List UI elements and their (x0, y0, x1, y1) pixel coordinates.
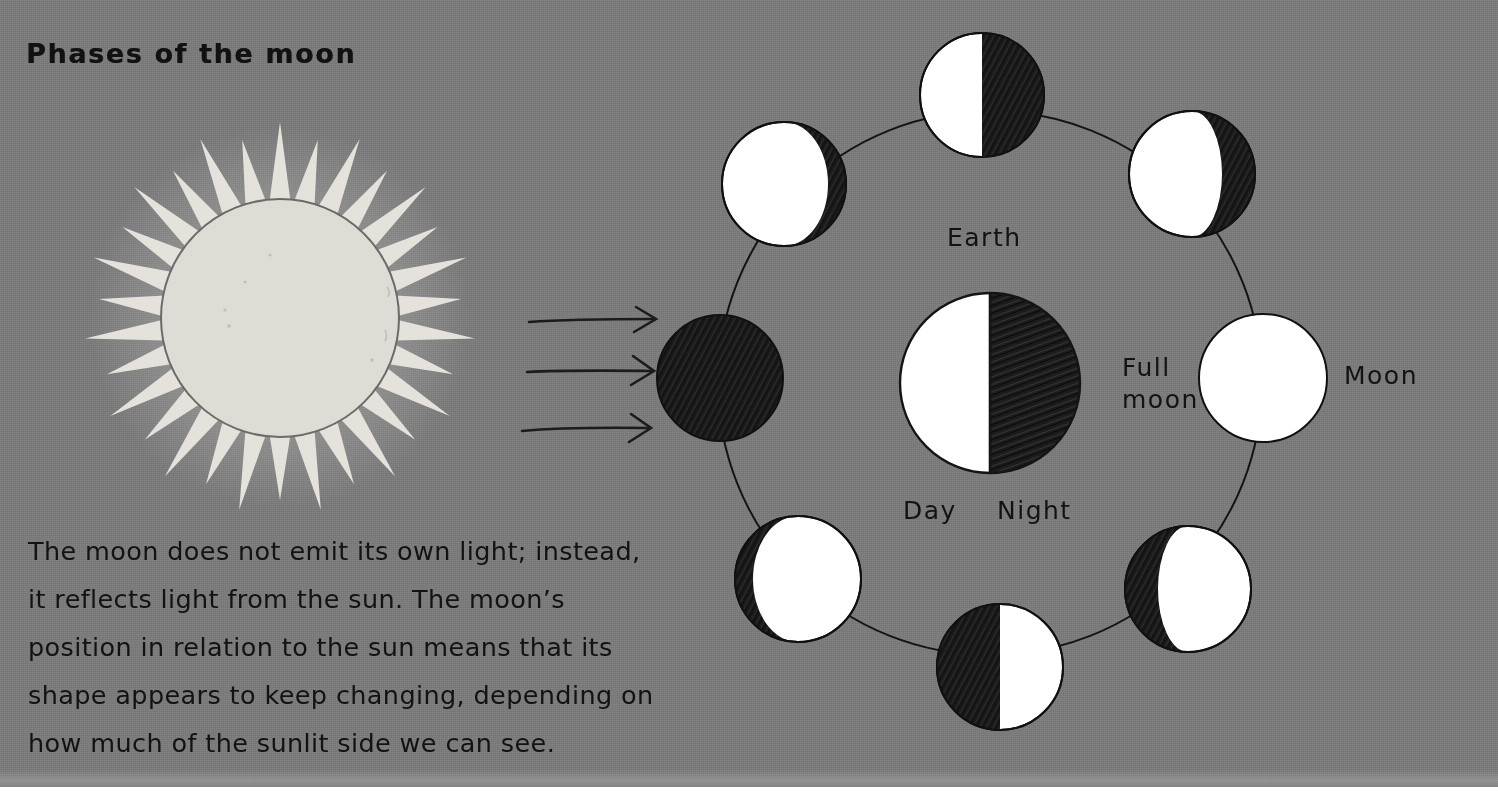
moon-last-quarter (932, 602, 1063, 734)
moon-waning-crescent (735, 516, 861, 642)
label-earth: Earth (947, 222, 1022, 254)
body-line-4: shape appears to keep changing, dependin… (28, 671, 728, 719)
figure-panel: Phases of the moon The moon does not emi… (0, 0, 1498, 787)
label-night: Night (997, 495, 1072, 527)
body-line-3: position in relation to the sun means th… (28, 623, 728, 671)
label-full-moon-line1: Full (1122, 352, 1199, 384)
moon-first-quarter (920, 31, 1048, 161)
label-full-moon-line2: moon (1122, 384, 1199, 416)
label-full-moon: Full moon (1122, 352, 1199, 416)
label-day: Day (903, 495, 957, 527)
label-moon: Moon (1344, 360, 1418, 392)
body-paragraph: The moon does not emit its own light; in… (28, 527, 728, 767)
moon-waxing-gibbous (1129, 111, 1255, 237)
moon-waning-gibbous (1125, 526, 1251, 652)
body-line-1: The moon does not emit its own light; in… (28, 527, 728, 575)
body-line-5: how much of the sunlit side we can see. (28, 719, 728, 767)
earth (900, 291, 1085, 477)
moon-phases-figure: Phases of the moon The moon does not emi… (0, 0, 1498, 802)
moon-waxing-crescent (722, 122, 846, 246)
moon-new-moon (657, 315, 783, 441)
sunlight-arrows (522, 307, 656, 442)
sun-icon (85, 122, 475, 510)
body-line-2: it reflects light from the sun. The moon… (28, 575, 728, 623)
moon-full-moon (1199, 314, 1327, 442)
page-title: Phases of the moon (26, 38, 356, 69)
panel-bottom-edge (0, 770, 1498, 787)
